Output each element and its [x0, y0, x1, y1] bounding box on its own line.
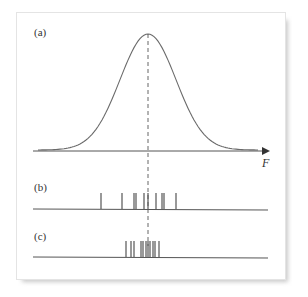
figure-svg: (a) F (b) (c): [0, 0, 308, 297]
f-axis-label: F: [261, 156, 270, 170]
panel-c-ticks: [126, 241, 159, 257]
panel-b-ticks: [101, 193, 176, 209]
panel-c-axis: [33, 257, 268, 258]
panel-c-label: (c): [34, 230, 47, 243]
panel-b-label: (b): [34, 181, 47, 194]
panel-b-axis: [33, 209, 268, 210]
panel-a-label: (a): [34, 26, 47, 39]
f-axis-arrow-icon: [262, 147, 270, 155]
